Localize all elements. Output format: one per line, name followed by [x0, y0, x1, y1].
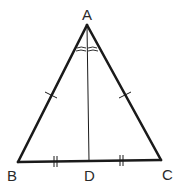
- label-b: B: [7, 167, 17, 184]
- median-ad: [87, 26, 89, 161]
- side-bc: [18, 160, 161, 162]
- angle-arc-left-outer: [76, 50, 86, 51]
- triangle-diagram: A B D C: [0, 0, 176, 186]
- side-ac: [87, 25, 161, 160]
- label-d: D: [84, 167, 95, 184]
- angle-arc-right-inner: [88, 47, 97, 48]
- angle-arc-right-outer: [88, 50, 98, 51]
- label-c: C: [162, 166, 173, 183]
- label-a: A: [82, 6, 92, 23]
- side-ab: [18, 25, 87, 162]
- angle-arc-left-inner: [77, 47, 86, 48]
